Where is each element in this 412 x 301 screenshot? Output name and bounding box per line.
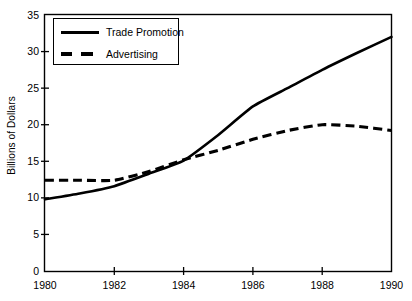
legend-swatch-solid-icon (61, 27, 99, 37)
series-line-advertising (45, 125, 392, 181)
chart-figure: Billions of Dollars 05101520253035 19801… (0, 0, 412, 301)
legend-label-advertising: Advertising (106, 48, 158, 60)
legend-label-trade-promotion: Trade Promotion (106, 26, 184, 38)
legend-item-advertising: Advertising (54, 43, 178, 65)
legend-item-trade-promotion: Trade Promotion (54, 21, 178, 43)
chart-legend: Trade Promotion Advertising (53, 18, 179, 65)
legend-swatch-dashed-icon (61, 49, 99, 59)
